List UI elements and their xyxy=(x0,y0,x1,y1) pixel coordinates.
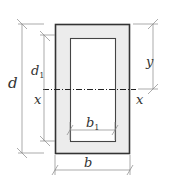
dimension-b xyxy=(52,155,133,175)
dimension-d1 xyxy=(40,31,55,146)
label-x-left: x xyxy=(34,92,42,107)
label-d1: d1 xyxy=(31,63,44,80)
label-d: d xyxy=(8,74,18,92)
label-x-right: x xyxy=(136,92,144,107)
label-b: b xyxy=(84,155,92,170)
dimension-d xyxy=(17,19,44,158)
hollow-section-diagram: d d1 x x y b1 b xyxy=(0,0,169,183)
label-y: y xyxy=(145,54,154,69)
